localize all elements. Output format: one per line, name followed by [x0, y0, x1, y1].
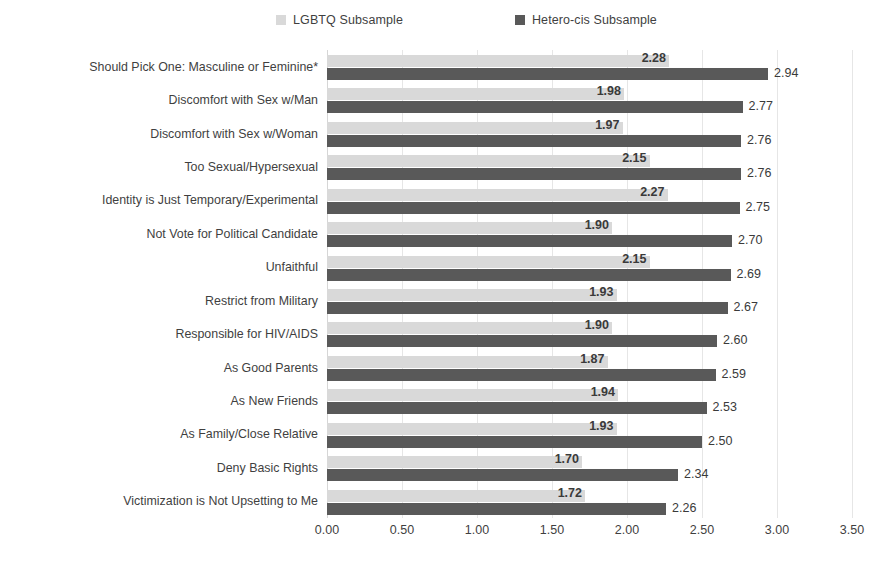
bar-lgbtq	[327, 256, 650, 268]
bar-hetero-cis	[327, 469, 678, 481]
value-label-hetero-cis: 2.75	[740, 201, 770, 214]
x-tick-label: 1.50	[540, 524, 564, 537]
bar-group: 1.902.70	[327, 217, 852, 250]
value-label-hetero-cis: 2.70	[732, 234, 762, 247]
category-label: Victimization is Not Upsetting to Me	[0, 495, 318, 507]
value-label-lgbtq: 1.72	[558, 487, 585, 500]
bar-lgbtq	[327, 289, 617, 301]
category-label: Restrict from Military	[0, 295, 318, 307]
bar-lgbtq	[327, 155, 650, 167]
bar-lgbtq	[327, 490, 585, 502]
x-tick-label: 1.00	[465, 524, 489, 537]
bar-hetero-cis	[327, 269, 731, 281]
x-tick-label: 2.50	[690, 524, 714, 537]
bar-group: 2.272.75	[327, 184, 852, 217]
category-label: As Family/Close Relative	[0, 428, 318, 440]
x-tick-label: 0.00	[315, 524, 339, 537]
value-label-lgbtq: 1.90	[585, 219, 612, 232]
value-label-hetero-cis: 2.76	[741, 134, 771, 147]
value-label-lgbtq: 1.93	[589, 420, 616, 433]
value-label-hetero-cis: 2.69	[731, 268, 761, 281]
bar-hetero-cis	[327, 369, 716, 381]
value-label-hetero-cis: 2.60	[717, 334, 747, 347]
bar-group: 1.932.67	[327, 284, 852, 317]
value-label-lgbtq: 1.98	[597, 85, 624, 98]
category-label: Too Sexual/Hypersexual	[0, 161, 318, 173]
bar-lgbtq	[327, 389, 618, 401]
category-label: Responsible for HIV/AIDS	[0, 328, 318, 340]
bar-hetero-cis	[327, 335, 717, 347]
category-label: As Good Parents	[0, 362, 318, 374]
value-label-lgbtq: 1.93	[589, 286, 616, 299]
value-label-hetero-cis: 2.76	[741, 167, 771, 180]
bar-group: 1.722.26	[327, 485, 852, 518]
bar-group: 2.152.69	[327, 251, 852, 284]
value-label-hetero-cis: 2.26	[666, 502, 696, 515]
x-tick-label: 2.00	[615, 524, 639, 537]
bar-group: 1.702.34	[327, 451, 852, 484]
value-label-lgbtq: 2.15	[622, 253, 649, 266]
category-label: Unfaithful	[0, 261, 318, 273]
category-label: Discomfort with Sex w/Man	[0, 94, 318, 106]
value-label-hetero-cis: 2.50	[702, 435, 732, 448]
value-label-hetero-cis: 2.67	[728, 301, 758, 314]
category-label: As New Friends	[0, 395, 318, 407]
category-label: Identity is Just Temporary/Experimental	[0, 194, 318, 206]
bar-hetero-cis	[327, 436, 702, 448]
bar-hetero-cis	[327, 135, 741, 147]
bar-hetero-cis	[327, 235, 732, 247]
bar-hetero-cis	[327, 68, 768, 80]
bar-lgbtq	[327, 189, 668, 201]
x-tick-label: 3.50	[840, 524, 864, 537]
value-label-lgbtq: 1.94	[591, 386, 618, 399]
bar-group: 1.872.59	[327, 351, 852, 384]
value-label-lgbtq: 2.27	[640, 186, 667, 199]
bar-hetero-cis	[327, 302, 728, 314]
bar-hetero-cis	[327, 101, 743, 113]
value-label-lgbtq: 1.87	[580, 353, 607, 366]
bar-group: 1.902.60	[327, 317, 852, 350]
bar-hetero-cis	[327, 168, 741, 180]
value-label-hetero-cis: 2.94	[768, 67, 798, 80]
category-label: Not Vote for Political Candidate	[0, 228, 318, 240]
bar-group: 1.982.77	[327, 83, 852, 116]
bar-chart: 2.282.941.982.771.972.762.152.762.272.75…	[0, 0, 889, 575]
value-label-lgbtq: 2.15	[622, 152, 649, 165]
bar-lgbtq	[327, 55, 669, 67]
x-axis: 0.000.501.001.502.002.503.003.50	[327, 524, 852, 544]
bar-group: 2.152.76	[327, 150, 852, 183]
value-label-lgbtq: 1.90	[585, 319, 612, 332]
category-label: Discomfort with Sex w/Woman	[0, 128, 318, 140]
bar-hetero-cis	[327, 202, 740, 214]
x-tick-label: 0.50	[390, 524, 414, 537]
bar-group: 2.282.94	[327, 50, 852, 83]
bar-lgbtq	[327, 222, 612, 234]
bar-lgbtq	[327, 88, 624, 100]
bar-hetero-cis	[327, 503, 666, 515]
bar-group: 1.972.76	[327, 117, 852, 150]
gridline-3.50	[852, 50, 853, 518]
bar-lgbtq	[327, 456, 582, 468]
value-label-lgbtq: 1.70	[555, 453, 582, 466]
category-label: Deny Basic Rights	[0, 462, 318, 474]
value-label-hetero-cis: 2.53	[707, 401, 737, 414]
category-label: Should Pick One: Masculine or Feminine*	[0, 61, 318, 73]
plot-area: 2.282.941.982.771.972.762.152.762.272.75…	[327, 50, 852, 518]
value-label-hetero-cis: 2.59	[716, 368, 746, 381]
bar-hetero-cis	[327, 402, 707, 414]
x-tick-label: 3.00	[765, 524, 789, 537]
value-label-hetero-cis: 2.34	[678, 468, 708, 481]
bar-lgbtq	[327, 322, 612, 334]
bar-group: 1.942.53	[327, 384, 852, 417]
value-label-lgbtq: 2.28	[642, 52, 669, 65]
value-label-hetero-cis: 2.77	[743, 100, 773, 113]
value-label-lgbtq: 1.97	[595, 119, 622, 132]
bar-lgbtq	[327, 356, 608, 368]
bar-lgbtq	[327, 122, 623, 134]
bar-lgbtq	[327, 423, 617, 435]
bar-group: 1.932.50	[327, 418, 852, 451]
